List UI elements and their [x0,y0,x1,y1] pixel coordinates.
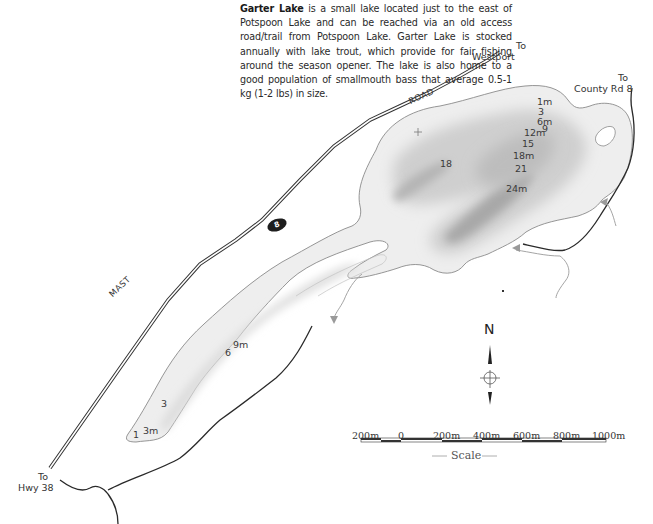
scale-tick-label: 0 [398,430,404,441]
depth-label: 3m [143,426,158,436]
destination-county-rd-to: To [618,72,628,83]
scale-tick-label: 200m [352,430,379,441]
destination-westport-name: Westport [472,51,515,62]
compass-north-label: N [484,321,494,337]
depth-label: 21 [515,164,527,174]
depth-label: 18m [513,151,534,161]
scale-tick-label: 1000m [592,430,625,441]
destination-hwy-to: To [38,471,48,482]
destination-county-rd-name: County Rd 8 [574,83,633,94]
lake-name: Garter Lake [240,3,304,14]
scale-tick-label: 200m [433,430,460,441]
depth-label: 24m [506,184,527,194]
scale-title: Scale [451,449,481,462]
stream-arrow-east [512,244,520,252]
depth-label: 6 [225,348,231,358]
destination-hwy-name: Hwy 38 [18,482,54,493]
rock-marker [502,290,504,292]
destination-westport: To [490,40,526,51]
scale-tick-label: 800m [553,430,580,441]
depth-label: 12m [524,128,545,138]
stream-arrow-south [330,316,338,324]
depth-label: 1 [133,430,139,440]
depth-label: 15 [522,139,534,149]
compass-rose [480,345,500,405]
scale-tick-label: 400m [473,430,500,441]
depth-label: 9m [233,340,248,350]
depth-label: 3 [161,399,167,409]
scale-tick-label: 600m [513,430,540,441]
westport-to: To [490,40,526,51]
depth-label: 18 [440,159,452,169]
